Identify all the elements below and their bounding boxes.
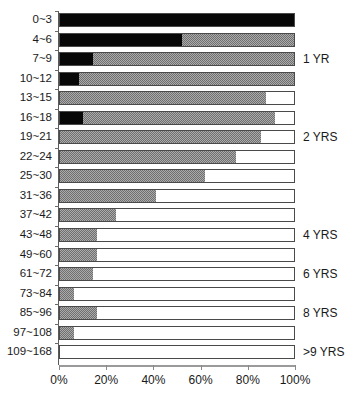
stacked-bar xyxy=(59,52,295,66)
bar-rows: 0~34~67~910~1213~1516~1819~2122~2425~303… xyxy=(59,11,295,363)
bar-segment-gray xyxy=(60,92,266,104)
bar-segment-gray xyxy=(60,131,261,143)
stacked-bar xyxy=(59,33,295,47)
x-axis-tick xyxy=(153,365,154,370)
year-annotation: 4 YRS xyxy=(303,228,337,242)
bar-row: 97~108 xyxy=(59,324,295,344)
stacked-bar xyxy=(59,130,295,144)
year-annotation: 2 YRS xyxy=(303,130,337,144)
bar-segment-white xyxy=(205,170,294,182)
stacked-bar xyxy=(59,306,295,320)
bar-segment-gray xyxy=(79,73,294,85)
y-axis-tick xyxy=(55,187,59,188)
y-axis-tick-label: 0~3 xyxy=(32,12,52,27)
bar-segment-gray xyxy=(60,327,74,339)
bar-segment-gray xyxy=(60,249,97,261)
y-axis-tick xyxy=(55,324,59,325)
stacked-bar xyxy=(59,326,295,340)
y-axis-tick xyxy=(55,50,59,51)
stacked-bar xyxy=(59,287,295,301)
y-axis-tick-label: 109~168 xyxy=(7,344,52,359)
bar-segment-gray xyxy=(60,288,74,300)
bar-row: 61~72 xyxy=(59,265,295,285)
y-axis-tick-label: 13~15 xyxy=(20,90,52,105)
bar-row: 19~21 xyxy=(59,128,295,148)
x-axis-tick xyxy=(295,365,296,370)
bar-segment-gray xyxy=(60,151,236,163)
bar-segment-white xyxy=(236,151,295,163)
bar-segment-gray xyxy=(60,268,93,280)
bar-segment-white xyxy=(116,209,294,221)
bar-row: 43~48 xyxy=(59,226,295,246)
bar-row: 73~84 xyxy=(59,285,295,305)
y-axis-tick xyxy=(55,70,59,71)
y-axis-tick xyxy=(55,148,59,149)
bar-segment-black xyxy=(60,73,79,85)
bar-row: 49~60 xyxy=(59,246,295,266)
y-axis-tick xyxy=(55,109,59,110)
y-axis-tick xyxy=(55,285,59,286)
stacked-bar xyxy=(59,228,295,242)
bar-segment-white xyxy=(97,229,294,241)
y-axis-tick xyxy=(55,128,59,129)
stacked-bar xyxy=(59,248,295,262)
x-axis-line xyxy=(59,365,296,367)
y-axis-tick xyxy=(55,226,59,227)
x-axis-tick-label: 20% xyxy=(94,373,118,387)
y-axis-tick xyxy=(55,89,59,90)
bar-row: 10~12 xyxy=(59,70,295,90)
bar-segment-white xyxy=(74,327,294,339)
bar-segment-white xyxy=(266,92,294,104)
bar-segment-white xyxy=(97,249,294,261)
y-axis-tick-label: 10~12 xyxy=(20,71,52,86)
x-axis-tick-label: 0% xyxy=(50,373,67,387)
y-axis-tick-label: 7~9 xyxy=(32,51,52,66)
x-axis-tick-label: 60% xyxy=(189,373,213,387)
x-axis-tick xyxy=(201,365,202,370)
bar-segment-gray xyxy=(60,170,205,182)
bar-segment-gray xyxy=(60,190,156,202)
x-axis-tick-label: 80% xyxy=(236,373,260,387)
bar-row: 16~18 xyxy=(59,109,295,129)
y-axis-tick xyxy=(55,343,59,344)
bar-segment-gray xyxy=(83,112,275,124)
year-annotation: 8 YRS xyxy=(303,306,337,320)
stacked-bar-chart: 0~34~67~910~1213~1516~1819~2122~2425~303… xyxy=(0,0,355,419)
stacked-bar xyxy=(59,111,295,125)
y-axis-tick-label: 73~84 xyxy=(20,286,52,301)
y-axis-tick xyxy=(55,265,59,266)
stacked-bar xyxy=(59,169,295,183)
plot-area: 0~34~67~910~1213~1516~1819~2122~2425~303… xyxy=(59,11,295,363)
year-annotation: >9 YRS xyxy=(303,345,344,359)
x-axis-tick xyxy=(106,365,107,370)
bar-row: 109~168 xyxy=(59,343,295,363)
bar-segment-white xyxy=(156,190,294,202)
y-axis-tick-label: 61~72 xyxy=(20,266,52,281)
y-axis-tick xyxy=(55,304,59,305)
bar-row: 85~96 xyxy=(59,304,295,324)
bar-segment-black xyxy=(60,14,294,26)
stacked-bar xyxy=(59,150,295,164)
year-annotation: 1 YR xyxy=(303,52,329,66)
bar-segment-white xyxy=(97,307,294,319)
bar-segment-gray xyxy=(60,307,97,319)
bar-segment-gray xyxy=(60,209,116,221)
bar-row: 37~42 xyxy=(59,206,295,226)
y-axis-tick xyxy=(55,11,59,12)
bar-segment-white xyxy=(74,288,294,300)
bar-segment-white xyxy=(275,112,294,124)
stacked-bar xyxy=(59,72,295,86)
stacked-bar xyxy=(59,208,295,222)
x-axis-tick-label: 100% xyxy=(280,373,311,387)
x-axis-tick-label: 40% xyxy=(141,373,165,387)
bar-segment-white xyxy=(60,346,294,358)
bar-segment-white xyxy=(93,268,294,280)
bar-row: 22~24 xyxy=(59,148,295,168)
y-axis-tick-label: 85~96 xyxy=(20,305,52,320)
bar-segment-gray xyxy=(60,229,97,241)
stacked-bar xyxy=(59,91,295,105)
y-axis-tick-label: 25~30 xyxy=(20,168,52,183)
bar-row: 25~30 xyxy=(59,167,295,187)
x-axis-tick xyxy=(59,365,60,370)
bar-row: 4~6 xyxy=(59,31,295,51)
